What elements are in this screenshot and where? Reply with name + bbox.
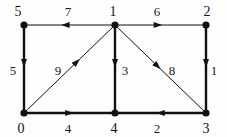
- arrowhead-3-to-4: [156, 110, 165, 116]
- node-label-5: 5: [15, 5, 22, 18]
- graph-node-4: [111, 109, 118, 116]
- graph-node-1: [111, 21, 118, 28]
- graph-edge-0-to-1: [27, 28, 113, 111]
- edge-weight-0-to-1: 9: [55, 64, 62, 77]
- graph-node-5: [20, 21, 27, 28]
- graph-canvas: [0, 0, 227, 137]
- node-label-3: 3: [203, 122, 210, 135]
- edge-weight-1-to-2: 6: [154, 5, 161, 18]
- edge-weight-2-to-3: 1: [211, 64, 218, 77]
- arrowhead-0-to-4: [65, 110, 74, 116]
- node-label-2: 2: [204, 5, 211, 18]
- edge-weight-1-to-4: 3: [122, 64, 129, 77]
- arrowhead-2-to-3: [203, 59, 209, 68]
- graph-node-0: [20, 109, 27, 116]
- graph-node-2: [202, 21, 209, 28]
- edge-weight-5-to-0: 5: [10, 64, 17, 77]
- arrowhead-1-to-5: [61, 22, 70, 28]
- edge-layer: [21, 22, 209, 116]
- arrowhead-1-to-2: [154, 22, 163, 28]
- node-label-1: 1: [110, 5, 117, 18]
- arrowhead-5-to-0: [21, 59, 27, 68]
- graph-diagram: 765938142512043: [0, 0, 227, 137]
- edge-weight-3-to-4: 2: [154, 122, 161, 135]
- edge-weight-1-to-3: 8: [169, 64, 176, 77]
- arrowhead-1-to-4: [112, 59, 118, 68]
- node-label-0: 0: [18, 122, 25, 135]
- edge-weight-0-to-4: 4: [65, 122, 72, 135]
- edge-weight-1-to-5: 7: [65, 5, 72, 18]
- node-label-4: 4: [111, 122, 118, 135]
- graph-node-3: [202, 109, 209, 116]
